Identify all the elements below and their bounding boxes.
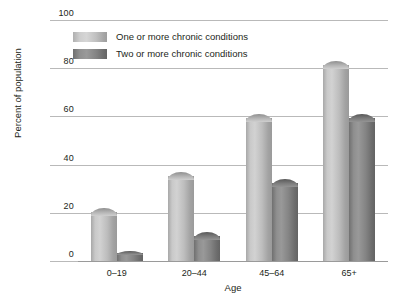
bar-chart-figure: Percent of population 020406080100 0–192… <box>0 0 400 299</box>
bar <box>272 179 298 261</box>
y-tick-label-20: 20 <box>14 202 74 211</box>
bar-body <box>91 212 117 261</box>
bar-cap <box>91 208 117 216</box>
legend-item: Two or more chronic conditions <box>73 46 248 61</box>
x-tick-label-1: 20–44 <box>154 268 234 278</box>
y-tick-label-0: 0 <box>14 250 74 259</box>
y-tick-rule-60 <box>50 116 78 117</box>
bar <box>194 232 220 261</box>
y-tick-rule-0 <box>50 261 78 262</box>
bar-group <box>323 20 375 261</box>
bar <box>91 208 117 261</box>
bar <box>246 114 272 261</box>
y-axis-title: Percent of population <box>13 13 23 173</box>
bar-cap <box>272 179 298 187</box>
y-tick-rule-80 <box>50 68 78 69</box>
y-tick-label-80: 80 <box>14 57 74 66</box>
bar-body <box>323 65 349 261</box>
x-tick-label-0: 0–19 <box>77 268 157 278</box>
y-tick-label-40: 40 <box>14 154 74 163</box>
bar-cap <box>246 114 272 122</box>
bar-group <box>246 20 298 261</box>
y-tick-label-100: 100 <box>14 9 74 18</box>
x-axis-title: Age <box>78 283 388 293</box>
legend-item: One or more chronic conditions <box>73 29 248 44</box>
x-axis-line <box>78 261 388 262</box>
chart-legend: One or more chronic conditionsTwo or mor… <box>73 29 248 63</box>
bar <box>117 251 143 261</box>
y-tick-rule-40 <box>50 165 78 166</box>
bar-cap <box>168 172 194 180</box>
bar <box>349 114 375 261</box>
bar-cap <box>194 232 220 240</box>
bar-cap <box>117 251 143 255</box>
bar-body <box>272 183 298 261</box>
legend-label: One or more chronic conditions <box>116 31 248 42</box>
legend-label: Two or more chronic conditions <box>116 48 247 59</box>
x-tick-label-2: 45–64 <box>232 268 312 278</box>
y-tick-label-60: 60 <box>14 105 74 114</box>
bar <box>168 172 194 261</box>
bar-cap <box>349 114 375 122</box>
y-tick-rule-100 <box>50 20 78 21</box>
legend-swatch <box>73 49 107 59</box>
y-tick-rule-20 <box>50 213 78 214</box>
x-tick-label-3: 65+ <box>309 268 389 278</box>
bar-body <box>349 118 375 261</box>
bar <box>323 61 349 261</box>
bar-cap <box>323 61 349 69</box>
bar-body <box>168 176 194 261</box>
bar-body <box>246 118 272 261</box>
legend-swatch <box>73 32 107 42</box>
